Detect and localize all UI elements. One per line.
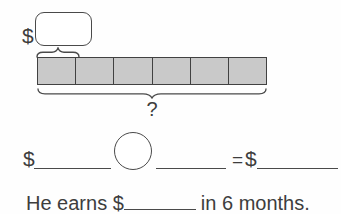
equals-sign: = bbox=[232, 150, 243, 169]
sentence-prefix: He earns $ bbox=[26, 192, 124, 214]
operation-circle[interactable] bbox=[114, 132, 152, 170]
worksheet-diagram: $ ? $ = $ He earns $in 6 months. bbox=[0, 0, 341, 214]
bar-segment bbox=[153, 58, 191, 84]
equation-dollar-left: $ bbox=[23, 148, 35, 169]
equation-blank-left[interactable] bbox=[34, 150, 111, 169]
total-question-mark: ? bbox=[143, 98, 161, 120]
sentence-blank[interactable] bbox=[124, 195, 196, 210]
unit-dollar-label: $ bbox=[22, 25, 34, 46]
equation-blank-right[interactable] bbox=[156, 150, 226, 169]
equation-blank-result[interactable] bbox=[257, 150, 338, 169]
unit-answer-box[interactable] bbox=[35, 12, 92, 46]
sentence-suffix: in 6 months. bbox=[201, 192, 310, 214]
bar-segment bbox=[191, 58, 229, 84]
bar-segment bbox=[229, 58, 266, 84]
equation-dollar-right: $ bbox=[245, 148, 257, 169]
bar-segment bbox=[114, 58, 152, 84]
bar-segment bbox=[38, 58, 76, 84]
tape-diagram-bar bbox=[37, 57, 267, 85]
bar-segment bbox=[76, 58, 114, 84]
answer-sentence: He earns $in 6 months. bbox=[26, 192, 310, 214]
